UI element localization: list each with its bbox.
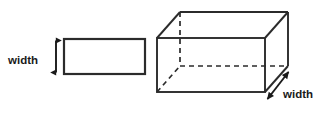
width-label-rectangle: width xyxy=(7,54,38,66)
geometry-figure: width width xyxy=(0,0,332,113)
width-label-prism: width xyxy=(282,88,313,100)
figure-canvas: width width xyxy=(0,0,332,113)
